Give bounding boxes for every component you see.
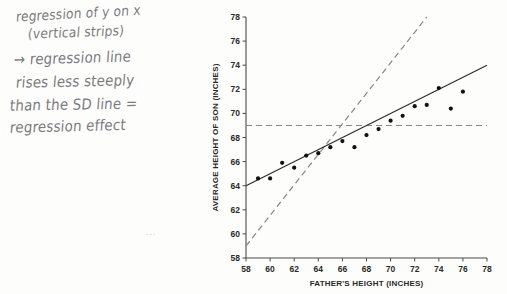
y-tick-label: 58: [231, 253, 241, 263]
data-point: [413, 104, 417, 108]
plot-svg: 5860626466687072747678 58606264666870727…: [205, 0, 507, 294]
x-tick-label: 76: [458, 264, 468, 274]
x-tick-label: 64: [314, 264, 324, 274]
x-tick-label: 68: [362, 264, 372, 274]
annotation-line-1: regression of y on x: [15, 2, 141, 25]
x-tick-label: 74: [434, 264, 444, 274]
pencil-smudge-mark: ...: [146, 228, 157, 237]
data-point: [437, 86, 441, 90]
y-axis: 5860626466687072747678: [231, 12, 246, 263]
annotation-line-5: than the SD line =: [9, 95, 138, 115]
y-axis-title: AVERAGE HEIGHT OF SON (INCHES): [211, 63, 220, 211]
x-tick-label: 72: [410, 264, 420, 274]
data-point: [376, 127, 380, 131]
data-point: [401, 114, 405, 118]
data-point: [389, 119, 393, 123]
data-point: [316, 151, 320, 155]
x-tick-label: 78: [482, 264, 492, 274]
y-tick-label: 72: [231, 84, 241, 94]
y-tick-label: 60: [231, 229, 241, 239]
data-point: [352, 145, 356, 149]
data-point: [364, 133, 368, 137]
data-point: [340, 139, 344, 143]
data-point: [280, 161, 284, 165]
x-tick-label: 70: [386, 264, 396, 274]
annotation-line-3: → regression line: [13, 48, 131, 69]
y-tick-label: 78: [231, 12, 241, 22]
y-tick-label: 70: [231, 108, 241, 118]
data-point: [425, 103, 429, 107]
y-tick-label: 76: [231, 36, 241, 46]
annotation-line-2: (vertical strips): [27, 23, 125, 42]
scatter-plot-figure: 5860626466687072747678 58606264666870727…: [205, 0, 507, 294]
annotation-line-6: regression effect: [9, 116, 126, 136]
y-tick-label: 68: [231, 133, 241, 143]
x-tick-label: 60: [265, 264, 275, 274]
data-point: [292, 166, 296, 170]
data-point: [256, 176, 260, 180]
y-tick-label: 64: [231, 181, 241, 191]
x-axis: 5860626466687072747678: [241, 258, 492, 274]
data-point: [461, 90, 465, 94]
x-tick-label: 66: [338, 264, 348, 274]
y-tick-label: 74: [231, 60, 241, 70]
x-tick-label: 62: [289, 264, 299, 274]
x-axis-title: FATHER'S HEIGHT (INCHES): [310, 279, 424, 288]
y-tick-label: 62: [231, 205, 241, 215]
sd-line: [246, 17, 427, 246]
data-point: [449, 106, 453, 110]
y-tick-label: 66: [231, 157, 241, 167]
handwritten-annotation-block: regression of y on x (vertical strips) →…: [0, 0, 205, 294]
annotation-line-4: rises less steeply: [15, 71, 135, 91]
data-point: [304, 153, 308, 157]
data-point: [268, 176, 272, 180]
x-tick-label: 58: [241, 264, 251, 274]
data-point: [328, 145, 332, 149]
